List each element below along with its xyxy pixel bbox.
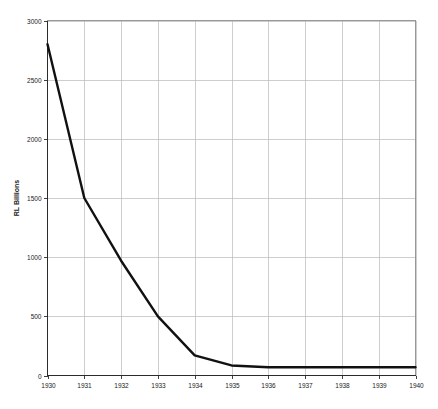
x-tick-label: 1933 [151, 382, 166, 389]
y-tick-label: 1000 [27, 254, 42, 261]
x-tick-label: 1931 [77, 382, 92, 389]
x-tick-label: 1936 [261, 382, 276, 389]
y-tick-label: 0 [38, 373, 42, 380]
x-tick-label: 1932 [114, 382, 129, 389]
line-chart: 050010001500200025003000 193019311932193… [0, 0, 438, 409]
chart-canvas: 050010001500200025003000 193019311932193… [0, 0, 438, 409]
y-tick-label: 2000 [27, 136, 42, 143]
y-tick-label: 500 [31, 313, 42, 320]
x-tick-label: 1939 [372, 382, 387, 389]
y-tick-label: 1500 [27, 195, 42, 202]
x-tick-label: 1937 [298, 382, 313, 389]
y-tick-label: 3000 [27, 18, 42, 25]
y-axis-title: RL Billions [13, 180, 20, 217]
x-tick-label: 1934 [188, 382, 203, 389]
x-tick-label: 1935 [225, 382, 240, 389]
x-tick-label: 1940 [409, 382, 424, 389]
y-tick-label: 2500 [27, 77, 42, 84]
x-tick-label: 1938 [335, 382, 350, 389]
chart-background [0, 0, 438, 409]
y-axis-title-group: RL Billions [13, 180, 20, 217]
x-tick-label: 1930 [41, 382, 56, 389]
